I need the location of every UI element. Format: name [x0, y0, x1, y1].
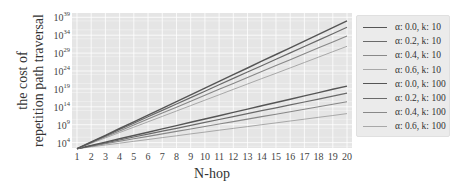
x-tick-label: 16	[285, 151, 295, 162]
legend-item: α: 0.2, k: 100	[357, 91, 446, 105]
y-axis-ticks: 104109101410191024102910341039	[54, 10, 71, 148]
y-tick-label: 1039	[54, 10, 71, 23]
legend-line-swatch	[363, 112, 387, 113]
x-axis-label: N-hop	[194, 166, 230, 181]
legend-line-swatch	[363, 69, 387, 70]
x-tick-label: 19	[328, 151, 338, 162]
x-tick-label: 2	[89, 151, 94, 162]
legend-item: α: 0.4, k: 10	[357, 48, 441, 62]
legend-line-swatch	[363, 98, 387, 99]
legend-line-swatch	[363, 55, 387, 56]
y-axis-label-line: repetition path traversal	[31, 14, 46, 147]
legend-label: α: 0.6, k: 100	[395, 121, 446, 131]
legend-item: α: 0.6, k: 100	[357, 119, 446, 133]
x-tick-label: 1	[74, 151, 79, 162]
x-tick-label: 4	[117, 151, 122, 162]
x-tick-label: 7	[160, 151, 165, 162]
x-tick-label: 8	[174, 151, 179, 162]
y-tick-label: 1034	[54, 28, 71, 41]
legend-item: α: 0.0, k: 100	[357, 77, 446, 91]
legend-line-swatch	[363, 41, 387, 42]
legend-label: α: 0.4, k: 100	[395, 107, 446, 117]
x-tick-label: 12	[228, 151, 238, 162]
legend-label: α: 0.4, k: 10	[395, 50, 441, 60]
y-axis-label: the cost ofrepetition path traversal	[15, 14, 46, 147]
x-tick-label: 20	[342, 151, 352, 162]
legend-label: α: 0.6, k: 10	[395, 65, 441, 75]
x-tick-label: 3	[103, 151, 108, 162]
x-tick-label: 17	[299, 151, 309, 162]
x-tick-label: 6	[146, 151, 151, 162]
y-axis-label-line: the cost of	[15, 51, 30, 110]
legend-label: α: 0.0, k: 100	[395, 79, 446, 89]
y-tick-label: 1024	[54, 64, 71, 77]
legend-item: α: 0.0, k: 10	[357, 20, 441, 34]
legend-item: α: 0.6, k: 10	[357, 63, 441, 77]
legend-label: α: 0.2, k: 100	[395, 93, 446, 103]
x-tick-label: 9	[188, 151, 193, 162]
legend-line-swatch	[363, 27, 387, 28]
y-tick-label: 104	[57, 136, 71, 149]
x-tick-label: 18	[314, 151, 324, 162]
x-tick-label: 14	[257, 151, 267, 162]
legend-item: α: 0.2, k: 10	[357, 34, 441, 48]
x-tick-label: 11	[214, 151, 224, 162]
x-axis-ticks: 1234567891011121314151617181920	[74, 151, 352, 162]
legend-line-swatch	[363, 126, 387, 127]
y-tick-label: 1029	[54, 46, 71, 59]
chart-legend: α: 0.0, k: 10α: 0.2, k: 10α: 0.4, k: 10α…	[356, 15, 450, 137]
legend-item: α: 0.4, k: 100	[357, 105, 446, 119]
plot-area	[72, 13, 352, 148]
y-tick-label: 109	[57, 118, 70, 131]
legend-label: α: 0.0, k: 10	[395, 22, 441, 32]
y-tick-label: 1019	[54, 82, 71, 95]
x-tick-label: 15	[271, 151, 281, 162]
x-tick-label: 10	[200, 151, 210, 162]
y-tick-label: 1014	[54, 100, 71, 113]
x-tick-label: 13	[243, 151, 253, 162]
x-tick-label: 5	[131, 151, 136, 162]
legend-label: α: 0.2, k: 10	[395, 36, 441, 46]
legend-line-swatch	[363, 83, 387, 84]
